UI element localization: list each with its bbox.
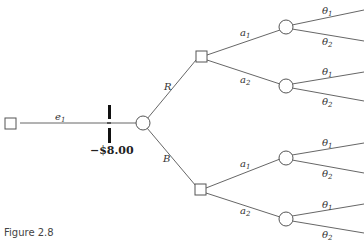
label-theta1-4: θ1 [322, 199, 333, 212]
cost-bar-top [108, 105, 111, 119]
label-theta1-2: θ1 [322, 66, 333, 79]
figure-caption: Figure 2.8 [4, 227, 54, 238]
chance-node-e1 [136, 116, 150, 130]
chance-node-R-a2 [279, 79, 293, 93]
cost-label: −$8.00 [90, 144, 134, 157]
label-bottom-a1: a1 [240, 158, 250, 171]
label-e1: e1 [55, 111, 65, 124]
label-R: R [163, 81, 172, 92]
chance-node-B-a1 [279, 151, 293, 165]
label-theta1-3: θ1 [322, 137, 333, 150]
label-theta2-4: θ2 [322, 229, 333, 242]
chance-node-B-a2 [279, 212, 293, 226]
decision-tree-diagram: e1 −$8.00 R B a1 a2 a1 a2 θ1 θ2 θ1 θ2 θ1… [0, 0, 364, 244]
label-B: B [162, 153, 170, 164]
label-top-a2: a2 [240, 74, 251, 87]
edge-B [147, 128, 196, 186]
label-theta2-2: θ2 [322, 96, 333, 109]
decision-node-B [195, 184, 206, 195]
label-theta2-3: θ2 [322, 168, 333, 181]
root-decision-node [5, 118, 16, 129]
label-theta1-1: θ1 [322, 5, 333, 18]
decision-node-R [196, 51, 207, 62]
chance-node-R-a1 [279, 20, 293, 34]
cost-bar-bottom [108, 128, 111, 143]
label-theta2-1: θ2 [322, 36, 333, 49]
label-top-a1: a1 [240, 27, 250, 40]
